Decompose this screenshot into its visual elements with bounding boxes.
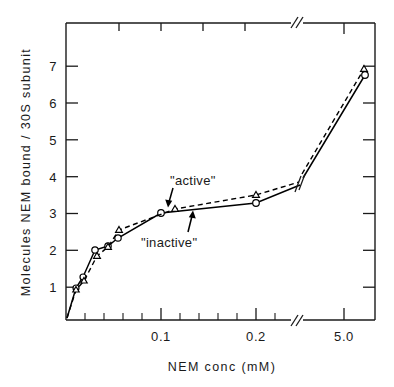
inactive-arrow-head [189,211,196,219]
x-axis-title: NEM conc (mM) [168,360,276,374]
y-axis-title: Molecules NEM bound / 30S subunit [19,48,33,296]
axes-frame [66,23,375,320]
axis-break-marks [291,17,303,326]
y-tick-label-6: 6 [49,96,57,111]
y-tick-label-7: 7 [49,59,57,74]
y-tick-label-1: 1 [49,280,57,295]
series-active [67,72,368,318]
series-active-line [67,75,365,318]
x-tick-label-5.0: 5.0 [334,329,354,344]
annotation-label-active: "active" [170,173,216,188]
data-point-triangle [116,227,123,233]
x-tick-label-0.2: 0.2 [246,329,266,344]
y-tick-label-3: 3 [49,206,57,221]
annotation-label-inactive: "inactive" [141,235,197,250]
series-inactive-markers [73,66,368,293]
annotation-arrow-inactive [188,211,196,233]
curve-break-marks [295,174,305,192]
y-tick-labels: 7 6 5 4 3 2 1 [49,59,57,295]
series-inactive-line [67,69,364,318]
inactive-arrow-shaft [188,216,192,232]
annotation-arrow-active [165,188,173,208]
y-tick-label-2: 2 [49,243,57,258]
data-point-circle [362,72,369,79]
y-axis-ticks [66,66,78,287]
active-arrow-shaft [169,188,173,202]
series-active-markers [73,72,368,291]
data-point-triangle [253,192,260,198]
y-tick-label-5: 5 [49,133,57,148]
y-axis-ticks-right [363,66,375,287]
data-point-triangle [172,206,179,212]
curve-break-slash-2 [299,174,305,190]
series-inactive [67,66,367,319]
data-point-circle [253,200,260,207]
x-axis-ticks-top [119,23,344,34]
x-axis-ticks-bottom [85,308,344,320]
chart-canvas: 7 6 5 4 3 2 1 0.1 0.2 5.0 "active" "inac… [0,0,394,387]
curve-break-slash-1 [295,176,301,192]
y-tick-label-4: 4 [49,170,57,185]
figure-container: 7 6 5 4 3 2 1 0.1 0.2 5.0 "active" "inac… [0,0,394,387]
x-tick-label-0.1: 0.1 [151,329,171,344]
active-arrow-head [165,200,172,208]
x-tick-labels: 0.1 0.2 5.0 [151,329,354,344]
